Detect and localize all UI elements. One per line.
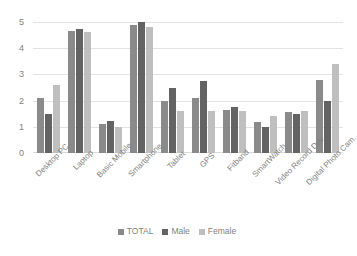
bar-total <box>68 31 75 153</box>
bar-total <box>99 124 106 153</box>
x-axis-label: Tablet <box>165 149 186 170</box>
x-axis-label-cell: Digital Photo Cam. <box>312 153 343 213</box>
bar-female <box>208 111 215 153</box>
bar-female <box>146 27 153 153</box>
bar-group <box>33 22 64 153</box>
bar-male <box>324 101 331 153</box>
bar-male <box>45 114 52 153</box>
y-axis-tick-label: 0 <box>19 149 24 158</box>
x-axis-label-cell: Basic Mobile <box>95 153 126 213</box>
legend-swatch-icon <box>162 229 168 235</box>
bar-male <box>107 121 114 153</box>
y-axis: 012345 <box>0 22 30 153</box>
y-axis-tick-label: 4 <box>19 44 24 53</box>
x-axis-label-cell: Tablet <box>157 153 188 213</box>
bar-female <box>239 111 246 153</box>
legend-swatch-icon <box>199 229 205 235</box>
bar-male <box>231 107 238 153</box>
bar-total <box>254 122 261 153</box>
x-axis-label-cell: GPS <box>188 153 219 213</box>
legend-swatch-icon <box>118 229 124 235</box>
legend-item[interactable]: TOTAL <box>118 227 154 236</box>
bar-female <box>332 64 339 153</box>
bar-total <box>130 25 137 153</box>
bar-total <box>223 110 230 153</box>
bar-total <box>192 98 199 153</box>
x-axis-labels: Desktop PCLaptopBasic MobileSmartphoneTa… <box>33 153 343 213</box>
legend-label: Male <box>171 227 189 236</box>
bar-female <box>177 111 184 153</box>
bar-male <box>200 81 207 153</box>
bar-male <box>293 114 300 153</box>
bar-groups <box>33 22 343 153</box>
legend-item[interactable]: Female <box>199 227 236 236</box>
bar-group <box>312 22 343 153</box>
x-axis-label-cell: Fitband <box>219 153 250 213</box>
legend-item[interactable]: Male <box>162 227 189 236</box>
bar-group <box>95 22 126 153</box>
y-axis-tick-label: 3 <box>19 70 24 79</box>
y-axis-tick-label: 5 <box>19 18 24 27</box>
bar-total <box>37 98 44 153</box>
bar-male <box>76 29 83 153</box>
bar-male <box>169 88 176 154</box>
legend-label: TOTAL <box>127 227 154 236</box>
plot-area <box>33 22 343 153</box>
bar-group <box>126 22 157 153</box>
y-axis-tick-label: 1 <box>19 122 24 131</box>
bar-group <box>188 22 219 153</box>
x-axis-label-cell: Smartphone <box>126 153 157 213</box>
y-axis-tick-label: 2 <box>19 96 24 105</box>
legend-label: Female <box>208 227 236 236</box>
bar-group <box>281 22 312 153</box>
bar-female <box>84 32 91 153</box>
bar-group <box>64 22 95 153</box>
bar-group <box>219 22 250 153</box>
bar-group <box>157 22 188 153</box>
chart-legend: TOTALMaleFemale <box>0 227 354 236</box>
bar-male <box>262 127 269 153</box>
bar-female <box>53 85 60 153</box>
x-axis-label-cell: Laptop <box>64 153 95 213</box>
bar-male <box>138 22 145 153</box>
x-axis-label-cell: Desktop PC <box>33 153 64 213</box>
bar-group <box>250 22 281 153</box>
x-axis-label: GPS <box>198 151 216 169</box>
